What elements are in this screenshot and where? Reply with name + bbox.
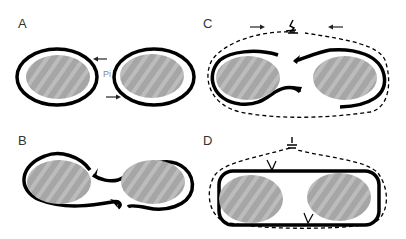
diagram-canvas <box>0 0 406 239</box>
panel-label-b: B <box>18 133 27 148</box>
panel-label-c: C <box>203 16 212 31</box>
panel-b <box>24 154 192 210</box>
panel-label-a: A <box>18 16 27 31</box>
panel-c <box>208 20 389 117</box>
panel-d <box>209 137 386 228</box>
pi-annotation: Pi <box>103 69 111 79</box>
panel-label-d: D <box>203 133 212 148</box>
